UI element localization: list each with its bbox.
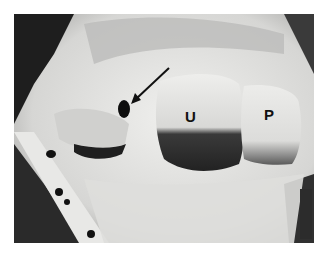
- specimen-photo: U P: [14, 14, 314, 243]
- label-p: P: [264, 106, 274, 123]
- label-u: U: [185, 108, 196, 125]
- specimen-illustration: [14, 14, 314, 243]
